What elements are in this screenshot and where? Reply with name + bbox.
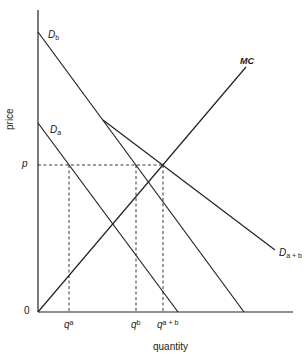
label-mc: MC xyxy=(240,56,254,66)
label-da: Da xyxy=(50,124,61,136)
diagram-canvas xyxy=(0,0,308,361)
qa-label: qa xyxy=(64,319,73,330)
y-axis-title: price xyxy=(4,108,15,130)
qb-label: qb xyxy=(131,319,140,330)
label-dab: Da + b xyxy=(279,247,302,259)
x-axis-title: quantity xyxy=(153,341,188,352)
demand-curve-aggregate xyxy=(103,120,275,250)
qab-label: qa + b xyxy=(157,319,178,330)
origin-label: 0 xyxy=(24,305,30,316)
demand-curve-a xyxy=(38,123,178,312)
price-p-label: p xyxy=(22,158,28,169)
label-db: Db xyxy=(48,29,59,41)
